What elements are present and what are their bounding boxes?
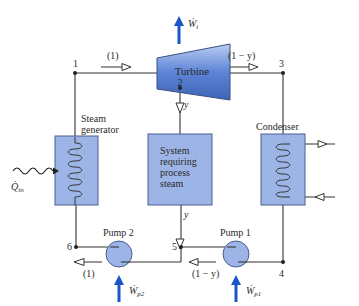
flow-label-top-right: (1 − y) [228, 50, 255, 62]
cogeneration-cycle-diagram: Turbine 2 Ẇt Steam generator Q̇in System… [0, 0, 359, 306]
flow-label-extraction: y [183, 99, 189, 110]
pump-2 [106, 241, 132, 267]
state-1-label: 1 [73, 58, 78, 69]
flow-arrow-left-icon [189, 259, 198, 266]
state-1-node [73, 71, 77, 75]
pump-1-label: Pump 1 [220, 227, 251, 238]
state-4-node [281, 260, 285, 264]
pump-2-work-arrow-icon [114, 275, 124, 302]
steam-generator-label-1: Steam [81, 113, 106, 124]
turbine-label: Turbine [175, 65, 210, 77]
coolant-out-arrow-icon [318, 141, 327, 148]
process-label-3: process [160, 167, 190, 178]
process-label-2: requiring [160, 156, 197, 167]
process-label-4: steam [160, 178, 184, 189]
flow-label-bottom-left: (1) [83, 268, 95, 280]
pump-2-work-label: Ẇp2 [129, 285, 145, 298]
coolant-in-arrow-icon [315, 194, 324, 201]
turbine-work-arrow-icon [174, 16, 184, 44]
flow-arrow-right-icon [122, 64, 131, 71]
flow-label-top-left: (1) [107, 50, 119, 62]
heat-input-arrow-icon [13, 168, 59, 175]
condenser [261, 134, 305, 205]
pump-2-label: Pump 2 [103, 227, 134, 238]
state-2-node [178, 86, 182, 90]
state-5-node [179, 245, 183, 249]
steam-generator-label-2: generator [81, 124, 119, 135]
flow-arrow-left-icon [74, 259, 84, 266]
flow-arrow-down-icon [176, 103, 184, 113]
turbine-work-label: Ẇt [188, 18, 199, 31]
process-steam-system: System requiring process steam [148, 134, 212, 205]
state-5-label: 5 [172, 241, 177, 252]
state-6-label: 6 [67, 241, 72, 252]
turbine: Turbine 2 [157, 44, 230, 100]
heat-input-label: Q̇in [11, 181, 24, 194]
process-label-1: System [160, 145, 190, 156]
pump-1 [223, 241, 249, 267]
flow-label-process-exit: y [183, 209, 189, 220]
steam-generator [55, 136, 98, 205]
state-3-node [281, 71, 285, 75]
pump-1-work-arrow-icon [231, 275, 241, 302]
condenser-label: Condenser [256, 121, 299, 132]
flow-label-bottom-right: (1 − y) [192, 268, 219, 280]
state-4-label: 4 [279, 268, 284, 279]
flow-arrow-right-icon [249, 64, 258, 71]
state-6-node [74, 245, 78, 249]
state-3-label: 3 [279, 58, 284, 69]
pump-1-work-label: Ẇp1 [246, 285, 261, 298]
